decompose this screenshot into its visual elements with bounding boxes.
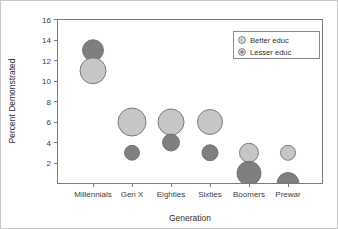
bubble-point — [240, 143, 259, 162]
x-tick-label: Eighties — [157, 190, 185, 199]
y-tick-label: 12 — [42, 57, 51, 66]
bubble-point — [237, 161, 261, 185]
bubble-point — [118, 108, 146, 136]
y-tick-label: 4 — [47, 139, 52, 148]
y-tick-label: 8 — [47, 98, 52, 107]
legend-marker-fill — [240, 50, 243, 53]
bubble-chart-figure: 246810121416 MillennialsGen XEightiesSix… — [0, 0, 338, 229]
chart-legend: Better educLesser educ — [234, 32, 320, 59]
bubble-point — [125, 145, 140, 160]
bubble-point — [80, 58, 106, 84]
bubble-point — [281, 145, 296, 160]
x-axis-title: Generation — [169, 213, 211, 223]
legend-label: Better educ — [250, 36, 289, 45]
x-tick-label: Gen X — [121, 190, 144, 199]
bubble-point — [198, 110, 223, 135]
x-tick-label: Boomers — [233, 190, 265, 199]
bubble-point — [158, 109, 184, 135]
y-tick-label: 2 — [47, 159, 52, 168]
y-tick-label: 6 — [47, 118, 52, 127]
chart-canvas: 246810121416 MillennialsGen XEightiesSix… — [1, 1, 338, 229]
y-tick-label: 10 — [42, 77, 51, 86]
bubble-series-group — [80, 40, 299, 195]
x-tick-label: Prewar — [275, 190, 301, 199]
x-tick-label: Millennials — [74, 190, 111, 199]
y-tick-label: 16 — [42, 16, 51, 25]
bubble-point — [163, 134, 180, 151]
y-axis-title: Percent Demonstrated — [7, 58, 17, 143]
legend-marker-fill — [240, 38, 243, 41]
y-tick-label: 14 — [42, 36, 51, 45]
bubble-point — [202, 145, 218, 161]
legend-label: Lesser educ — [250, 48, 292, 57]
y-axis: 246810121416 — [42, 16, 57, 169]
x-tick-label: Sixties — [198, 190, 222, 199]
x-axis: MillennialsGen XEightiesSixtiesBoomersPr… — [74, 184, 301, 199]
